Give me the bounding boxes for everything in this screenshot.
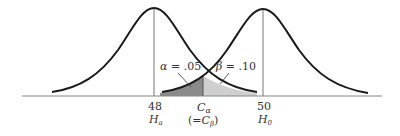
beta-label: β = .10 (215, 60, 256, 73)
critical-value-equiv: (=Cβ) (188, 114, 218, 128)
beta-region (203, 76, 257, 96)
curve-h0 (162, 9, 368, 93)
hypothesis-label-ha: Ha (148, 113, 163, 127)
alpha-pointer (178, 73, 191, 87)
mean-label-48: 48 (148, 100, 162, 113)
alpha-label: α = .05 (160, 60, 201, 73)
mean-label-50: 50 (257, 100, 271, 113)
hypothesis-label-h0: H0 (257, 113, 273, 127)
critical-value-label: Cα (197, 101, 211, 115)
power-diagram: α = .05 β = .10 48 50 Ha H0 Cα (=Cβ) (0, 0, 400, 136)
alpha-region (160, 76, 203, 96)
